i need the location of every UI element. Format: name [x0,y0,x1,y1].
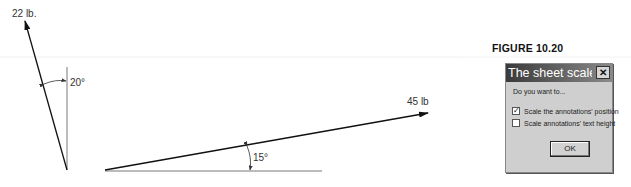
angle-label-20: 20° [70,77,85,88]
checkbox-scale-text-height[interactable] [512,119,520,127]
dialog-title: The sheet scale ha... [508,65,592,81]
option-label: Scale the annotations' position [524,108,619,115]
checkmark-icon: ✓ [513,106,520,115]
close-button[interactable]: ✕ [596,66,610,79]
force-label-22lb: 22 lb. [12,8,36,19]
angle-arc-20 [44,80,66,84]
option-label: Scale annotations' text height [524,120,615,127]
figure-caption: FIGURE 10.20 [492,42,563,54]
ok-button[interactable]: OK [550,141,590,157]
dialog-prompt: Do you want to... [513,88,566,95]
dialog-titlebar[interactable]: The sheet scale ha... ✕ [506,64,612,82]
force-vector-22lb [25,21,67,170]
close-icon: ✕ [599,67,607,78]
angle-label-15: 15° [253,152,268,163]
checkbox-scale-position[interactable]: ✓ [512,107,520,115]
angle-arc-15 [247,146,251,170]
option-scale-position[interactable]: ✓ Scale the annotations' position [512,107,619,115]
option-scale-text-height[interactable]: Scale annotations' text height [512,119,615,127]
force-label-45lb: 45 lb [407,96,429,107]
scale-dialog: The sheet scale ha... ✕ Do you want to..… [505,63,613,173]
